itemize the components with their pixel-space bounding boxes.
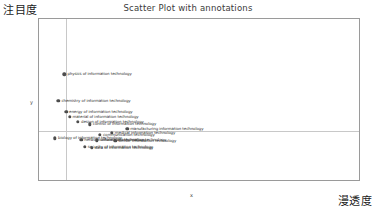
x-tick-mark [39,180,40,181]
y-axis-name-label: y [30,99,33,105]
scatter-point[interactable] [83,145,86,148]
y-tick-mark [38,95,39,96]
scatter-point[interactable] [68,115,71,118]
x-tick-mark [208,180,209,181]
scatter-point[interactable] [53,137,56,140]
x-tick-mark [166,180,167,181]
x-axis-name-label: x [190,192,193,198]
point-annotation-label: chemistry of information technology [61,99,130,103]
x-tick-mark [293,180,294,181]
chart-title: Scatter Plot with annotations [0,3,376,13]
chart-canvas: 注目度 漫透度 Scatter Plot with annotations 2.… [0,0,376,210]
plot-area: 2.52.01.51.00.5 0.00%0.25%0.50%0.75%1.00… [38,18,360,181]
y-tick-mark [38,25,39,26]
x-tick-mark [250,180,251,181]
y-tick-mark [38,164,39,165]
point-annotation-label: data of information technology [95,146,154,150]
scatter-point[interactable] [64,110,67,113]
x-axis-cjk-label: 漫透度 [338,192,373,208]
y-tick-mark [38,129,39,130]
point-annotation-label: physics of information technology [67,72,131,76]
scatter-point[interactable] [76,120,79,123]
x-tick-mark [335,180,336,181]
y-tick-mark [38,60,39,61]
x-tick-mark [123,180,124,181]
scatter-point[interactable] [88,123,91,126]
scatter-point[interactable] [57,99,60,102]
scatter-point[interactable] [90,146,93,149]
x-tick-mark [81,180,82,181]
scatter-point[interactable] [80,138,83,141]
horizontal-reference-line [39,131,359,132]
